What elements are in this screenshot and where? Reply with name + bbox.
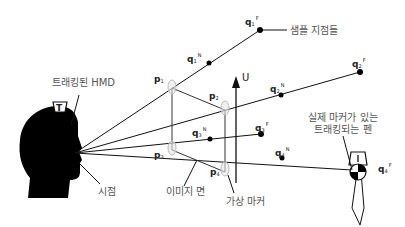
tracked-pen-label-line2: 트래킹되는 펜 — [303, 124, 383, 136]
hmd-tag-label: T — [56, 103, 62, 113]
point-label-p3: p3 — [154, 150, 164, 162]
image-plane-label: 이미지 면 — [166, 186, 205, 198]
up-axis-label: U — [242, 72, 249, 83]
viewpoint-label: 시점 — [98, 186, 116, 198]
point-label-p2: p2 — [209, 91, 219, 103]
viewpoint-leader-line — [78, 162, 100, 184]
point-label-q1n: q1N — [187, 50, 201, 66]
point-label-p4: p4 — [210, 167, 220, 179]
point-label-q4n: q4N — [275, 144, 289, 160]
point-label-q4f: q4F — [378, 160, 392, 176]
point-label-q3f: q3F — [255, 119, 269, 135]
point-label-q2n: q2N — [270, 80, 284, 96]
virtual-marker-label: 가상 마커 — [226, 196, 265, 208]
image-plane-leader-line — [184, 160, 197, 186]
up-arrow-icon — [232, 76, 240, 88]
point-label-q2f: q2F — [352, 55, 366, 71]
virtual-marker-leader-line — [228, 175, 234, 193]
tracked-pen-icon — [349, 152, 367, 225]
point-label-q3n: q3N — [192, 124, 206, 140]
tracked-hmd-label: 트래킹된 HMD — [52, 77, 115, 89]
point-label-p1: p1 — [154, 74, 164, 86]
tracked-pen-label-line1: 실제 마커가 있는 — [303, 112, 383, 124]
point-label-q1f: q1F — [245, 13, 259, 29]
hmd-tracker-box — [53, 113, 66, 123]
sample-points-label: 샘플 지점들 — [290, 25, 338, 37]
